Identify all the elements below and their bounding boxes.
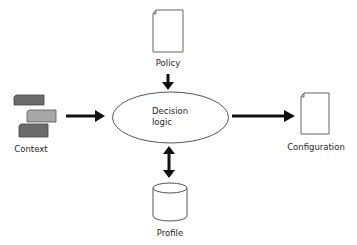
context-cards-icon (14, 95, 56, 137)
policy-label: Policy (148, 58, 188, 68)
decision-profile-bidirectional-arrow (163, 146, 175, 178)
policy-document-icon (153, 10, 183, 52)
decision-logic-line1: Decision (152, 106, 202, 117)
policy-to-decision-arrow (162, 74, 174, 90)
configuration-label: Configuration (286, 142, 346, 152)
context-to-decision-arrow (66, 110, 105, 122)
decision-logic-line2: logic (152, 117, 202, 128)
decision-logic-label: Decision logic (152, 106, 202, 128)
decision-to-configuration-arrow (232, 110, 295, 122)
profile-database-icon (153, 183, 187, 221)
context-label: Context (10, 144, 52, 154)
configuration-document-icon (301, 93, 329, 134)
profile-label: Profile (150, 228, 190, 238)
